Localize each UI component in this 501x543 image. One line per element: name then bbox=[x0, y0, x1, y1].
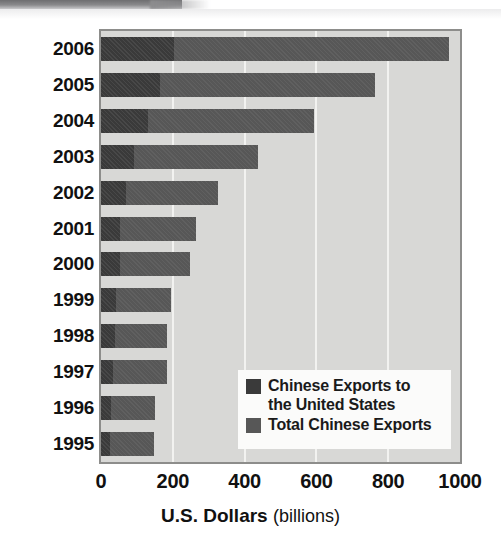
bar-row bbox=[101, 181, 218, 205]
bar-row bbox=[101, 73, 375, 97]
x-axis-tick-labels: 02004006008001000 bbox=[0, 470, 501, 498]
bar-row bbox=[101, 109, 314, 133]
legend-label-us-line1: Chinese Exports to bbox=[268, 377, 410, 394]
x-tick-label-0: 0 bbox=[96, 470, 107, 493]
legend-label-us: Chinese Exports to the United States bbox=[268, 376, 410, 414]
bar-segment-us-1999 bbox=[101, 288, 116, 312]
chart-legend: Chinese Exports to the United States Tot… bbox=[238, 370, 451, 449]
year-label-2001: 2001 bbox=[53, 217, 94, 241]
x-axis-title-units: (billions) bbox=[273, 506, 340, 526]
bar-row bbox=[101, 145, 258, 169]
bar-row bbox=[101, 324, 167, 348]
x-tick-label-600: 600 bbox=[300, 470, 332, 493]
year-label-2004: 2004 bbox=[53, 109, 94, 133]
year-label-1998: 1998 bbox=[53, 324, 94, 348]
legend-label-us-line2: the United States bbox=[268, 396, 395, 413]
bar-segment-us-2002 bbox=[101, 181, 126, 205]
bar-row bbox=[101, 360, 167, 384]
year-label-2000: 2000 bbox=[53, 252, 94, 276]
legend-item-total-chinese-exports: Total Chinese Exports bbox=[246, 415, 443, 434]
stacked-bar-chart-figure: 2006200520042003200220012000199919981997… bbox=[0, 0, 501, 543]
bar-segment-us-2006 bbox=[101, 37, 174, 61]
bar-segment-us-2003 bbox=[101, 145, 134, 169]
bar-row bbox=[101, 217, 196, 241]
year-label-1996: 1996 bbox=[53, 396, 94, 420]
bar-row bbox=[101, 37, 449, 61]
year-axis-labels: 2006200520042003200220012000199919981997… bbox=[22, 31, 94, 462]
mid-swatch-icon bbox=[246, 418, 261, 433]
x-tick-label-400: 400 bbox=[228, 470, 260, 493]
bar-row bbox=[101, 396, 155, 420]
year-label-2006: 2006 bbox=[53, 37, 94, 61]
legend-item-chinese-exports-to-us: Chinese Exports to the United States bbox=[246, 376, 443, 414]
bar-segment-us-2005 bbox=[101, 73, 160, 97]
bar-segment-us-1996 bbox=[101, 396, 111, 420]
year-label-2003: 2003 bbox=[53, 145, 94, 169]
bar-row bbox=[101, 252, 190, 276]
bar-segment-us-1995 bbox=[101, 432, 110, 456]
bar-segment-us-1998 bbox=[101, 324, 115, 348]
year-label-2002: 2002 bbox=[53, 181, 94, 205]
bar-segment-us-2000 bbox=[101, 252, 120, 276]
x-axis-title-main: U.S. Dollars bbox=[161, 505, 268, 526]
bar-segment-us-2001 bbox=[101, 217, 120, 241]
bar-row bbox=[101, 432, 154, 456]
year-label-1999: 1999 bbox=[53, 288, 94, 312]
year-label-1995: 1995 bbox=[53, 432, 94, 456]
legend-label-total: Total Chinese Exports bbox=[268, 415, 432, 434]
x-axis-title: U.S. Dollars (billions) bbox=[0, 505, 501, 527]
x-tick-label-200: 200 bbox=[157, 470, 189, 493]
bar-segment-us-2004 bbox=[101, 109, 148, 133]
year-label-2005: 2005 bbox=[53, 73, 94, 97]
year-label-1997: 1997 bbox=[53, 360, 94, 384]
bar-segment-us-1997 bbox=[101, 360, 113, 384]
x-tick-label-1000: 1000 bbox=[438, 470, 481, 493]
dark-swatch-icon bbox=[246, 379, 261, 394]
x-tick-label-800: 800 bbox=[372, 470, 404, 493]
bar-row bbox=[101, 288, 171, 312]
